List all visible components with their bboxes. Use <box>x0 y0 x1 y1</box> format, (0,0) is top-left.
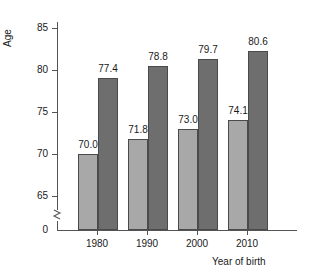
x-tick-label-1990: 1990 <box>122 238 172 249</box>
bar-2010-series-2 <box>248 51 268 230</box>
x-tick-label-1980: 1980 <box>72 238 122 249</box>
x-tick-1990 <box>147 230 148 235</box>
y-tick-75 <box>52 112 58 113</box>
bar-2000-series-2 <box>198 59 218 230</box>
y-tick-label-85: 85 <box>16 23 48 33</box>
bar-chart: Age 85 80 75 70 65 0 1980 1990 2000 2010… <box>0 0 310 273</box>
axis-break-icon <box>51 208 65 222</box>
x-tick-label-2000: 2000 <box>172 238 222 249</box>
y-tick-65 <box>52 196 58 197</box>
y-tick-label-75: 75 <box>16 107 48 117</box>
y-tick-70 <box>52 154 58 155</box>
bar-1980-series-2 <box>98 78 118 230</box>
x-tick-label-2010: 2010 <box>222 238 272 249</box>
y-tick-label-70: 70 <box>16 149 48 159</box>
x-tick-1980 <box>97 230 98 235</box>
bar-2000-series-1 <box>178 129 198 230</box>
bar-1990-series-2 <box>148 66 168 230</box>
x-tick-2010 <box>247 230 248 235</box>
x-axis-title: Year of birth <box>212 256 266 267</box>
bar-label-1980-series-1: 70.0 <box>68 140 108 150</box>
bar-label-1980-series-2: 77.4 <box>88 64 128 74</box>
bar-label-2000-series-1: 73.0 <box>168 115 208 125</box>
y-tick-label-65: 65 <box>16 191 48 201</box>
y-axis-line-upper <box>57 22 58 210</box>
bar-1990-series-1 <box>128 139 148 230</box>
bar-2010-series-1 <box>228 120 248 230</box>
bar-label-1990-series-2: 78.8 <box>138 52 178 62</box>
y-tick-label-0: 0 <box>16 225 48 235</box>
bar-1980-series-1 <box>78 154 98 230</box>
y-tick-85 <box>52 28 58 29</box>
bar-label-2010-series-2: 80.6 <box>238 37 278 47</box>
x-axis-line <box>57 230 297 231</box>
bar-label-1990-series-1: 71.8 <box>118 125 158 135</box>
y-tick-80 <box>52 70 58 71</box>
bar-label-2010-series-1: 74.1 <box>218 106 258 116</box>
y-tick-label-80: 80 <box>16 65 48 75</box>
y-axis-title: Age <box>3 18 13 58</box>
x-tick-2000 <box>197 230 198 235</box>
bar-label-2000-series-2: 79.7 <box>188 45 228 55</box>
